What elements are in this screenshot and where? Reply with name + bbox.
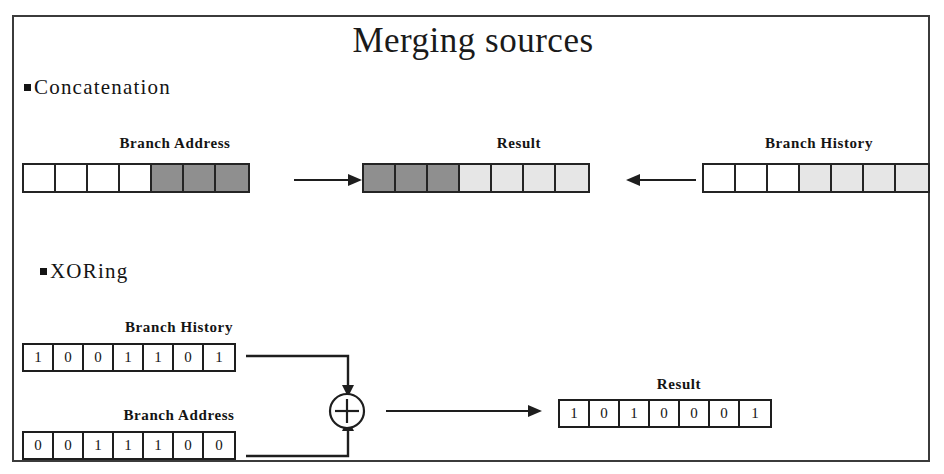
bit-cell: 0 [24, 433, 54, 458]
bit-cell: 1 [740, 401, 770, 426]
bit-cell: 0 [84, 345, 114, 370]
square-bullet-icon [24, 84, 31, 91]
bit-cell: 0 [710, 401, 740, 426]
square-bullet-icon [40, 268, 47, 275]
bit-cell: 0 [174, 433, 204, 458]
arrow-left-icon [626, 167, 698, 193]
cell [216, 165, 248, 191]
bit-cell: 1 [24, 345, 54, 370]
bit-cell: 1 [144, 433, 174, 458]
cell [524, 165, 556, 191]
slide-canvas: Merging sources Concatenation Branch Add… [0, 0, 944, 474]
bitstrip-branch-address: 0 0 1 1 1 0 0 [22, 431, 236, 460]
bit-cell: 0 [590, 401, 620, 426]
caption-branch-history-concat: Branch History [714, 134, 924, 152]
bullet-xoring-label: XORing [50, 259, 128, 283]
cell [832, 165, 864, 191]
bullet-concatenation: Concatenation [24, 75, 171, 99]
strip-result-concat [362, 163, 590, 193]
bit-cell: 1 [144, 345, 174, 370]
cell [704, 165, 736, 191]
bullet-concatenation-label: Concatenation [34, 75, 171, 99]
cell [768, 165, 800, 191]
cell [736, 165, 768, 191]
cell [152, 165, 184, 191]
cell [460, 165, 492, 191]
cell [800, 165, 832, 191]
cell [556, 165, 588, 191]
bit-cell: 0 [204, 433, 234, 458]
bit-cell: 0 [650, 401, 680, 426]
bit-cell: 1 [620, 401, 650, 426]
bitstrip-branch-history: 1 0 0 1 1 0 1 [22, 343, 236, 372]
arrow-right-to-result-icon [384, 398, 544, 424]
cell [864, 165, 896, 191]
bullet-xoring: XORing [40, 259, 128, 283]
bit-cell: 1 [84, 433, 114, 458]
cell [896, 165, 928, 191]
bit-cell: 0 [54, 433, 84, 458]
bit-cell: 0 [680, 401, 710, 426]
bit-cell: 0 [174, 345, 204, 370]
bit-cell: 0 [54, 345, 84, 370]
page-title: Merging sources [14, 20, 932, 62]
caption-branch-address-concat: Branch Address [70, 134, 280, 152]
cell [396, 165, 428, 191]
cell [184, 165, 216, 191]
cell [56, 165, 88, 191]
caption-result-xor: Result [619, 375, 739, 393]
arrow-right-icon [292, 167, 364, 193]
caption-branch-history-xor: Branch History [74, 318, 284, 336]
slide-frame: Merging sources Concatenation Branch Add… [12, 15, 930, 462]
xor-gate-icon [327, 391, 367, 431]
caption-result-concat: Result [459, 134, 579, 152]
cell [24, 165, 56, 191]
bitstrip-result: 1 0 1 0 0 0 1 [558, 399, 772, 428]
bit-cell: 1 [114, 433, 144, 458]
cell [120, 165, 152, 191]
strip-branch-address [22, 163, 250, 193]
strip-branch-history [702, 163, 930, 193]
bit-cell: 1 [204, 345, 234, 370]
cell [364, 165, 396, 191]
bit-cell: 1 [560, 401, 590, 426]
cell [428, 165, 460, 191]
cell [492, 165, 524, 191]
cell [88, 165, 120, 191]
bit-cell: 1 [114, 345, 144, 370]
